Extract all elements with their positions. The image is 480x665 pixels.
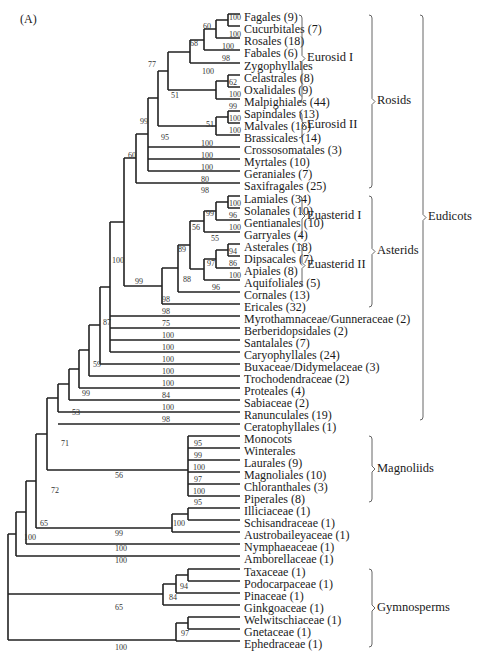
support-value: 97 (207, 259, 215, 268)
support-value: 51 (206, 120, 214, 129)
clade-label: Eurosid I (307, 50, 353, 64)
taxon-label: Saxifragales (25) (244, 179, 326, 193)
taxon-label: Amborellaceae (1) (244, 552, 334, 566)
support-value: 99 (135, 277, 143, 286)
support-value: 100 (162, 343, 174, 352)
support-value: 100 (229, 30, 241, 39)
support-value: 72 (51, 486, 59, 495)
support-value: 100 (229, 13, 241, 22)
clade-bracket (369, 569, 375, 647)
support-value: 100 (162, 403, 174, 412)
support-value: 89 (178, 245, 186, 254)
support-value: 97 (194, 475, 202, 484)
clade-bracket (420, 15, 426, 420)
support-value: 86 (229, 259, 237, 268)
taxon-label: Fabales (6) (244, 46, 298, 60)
support-value: 96 (212, 283, 220, 292)
support-value: 100 (162, 331, 174, 340)
support-value: 71 (61, 439, 69, 448)
support-value: 60 (128, 151, 136, 160)
clade-label: Gymnosperms (377, 600, 450, 614)
support-value: 100 (202, 67, 214, 76)
support-value: 65 (115, 603, 123, 612)
support-value: 99 (115, 529, 123, 538)
support-value: 100 (201, 163, 213, 172)
clade-label: Rosids (377, 93, 411, 107)
support-value: 100 (193, 487, 205, 496)
support-value: 100 (162, 355, 174, 364)
clade-label: Asterids (377, 243, 419, 257)
support-value: 55 (211, 234, 219, 243)
support-value: 84 (169, 593, 177, 602)
support-value: 100 (229, 114, 241, 123)
support-value: 56 (115, 471, 123, 480)
support-value: 98 (201, 186, 209, 195)
clade-label: Euasterid II (307, 257, 366, 271)
support-value: 100 (115, 643, 127, 652)
support-value: 98 (162, 415, 170, 424)
support-value: 100 (201, 139, 213, 148)
support-value: 95 (161, 133, 169, 142)
support-value: 100 (115, 556, 127, 565)
clade-bracket (369, 436, 375, 502)
support-value: 100 (162, 379, 174, 388)
support-value: 100 (162, 367, 174, 376)
taxon-label: Ephedraceae (1) (244, 637, 322, 651)
support-value: 98 (162, 307, 170, 316)
clade-bracket (369, 196, 375, 307)
support-value: 99 (229, 102, 237, 111)
support-value: 97 (181, 629, 189, 638)
support-value: 56 (192, 223, 200, 232)
support-value: 60 (203, 22, 211, 31)
support-value: 87 (103, 318, 111, 327)
support-value: 100 (222, 42, 234, 51)
support-value: 51 (171, 91, 179, 100)
support-value: 100 (115, 544, 127, 553)
support-value: 100 (229, 271, 241, 280)
support-value: 88 (183, 275, 191, 284)
clade-label: Eudicots (428, 209, 472, 223)
support-value: 80 (201, 175, 209, 184)
support-value: 100 (229, 223, 241, 232)
support-value: 99 (82, 389, 90, 398)
support-value: 68 (190, 39, 198, 48)
support-value: 53 (72, 408, 80, 417)
support-value: 100 (173, 519, 185, 528)
phylogenetic-tree: Fagales (9)Cucurbitales (7)Rosales (18)F… (0, 0, 480, 665)
support-value: 77 (148, 60, 156, 69)
support-value: 75 (162, 319, 170, 328)
clade-label: Euasterid I (307, 208, 362, 222)
support-value: 100 (24, 533, 36, 542)
clade-bracket (369, 15, 375, 188)
support-value: 99 (194, 451, 202, 460)
support-value: 84 (162, 391, 170, 400)
support-value: 96 (229, 211, 237, 220)
support-value: 100 (201, 151, 213, 160)
support-value: 65 (40, 519, 48, 528)
support-value: 99 (206, 209, 214, 218)
clade-label: Magnoliids (377, 461, 434, 475)
support-value: 98 (162, 295, 170, 304)
support-value: 62 (229, 78, 237, 87)
support-value: 98 (222, 54, 230, 63)
support-value: 100 (229, 199, 241, 208)
support-value: 100 (229, 126, 241, 135)
support-value: 94 (180, 582, 188, 591)
support-value: 95 (194, 498, 202, 507)
support-value: 100 (112, 256, 124, 265)
support-value: 94 (229, 247, 237, 256)
support-value: 59 (93, 360, 101, 369)
support-value: 100 (193, 463, 205, 472)
support-value: 100 (229, 90, 241, 99)
clade-label: Eurosid II (307, 117, 357, 131)
support-value: 99 (140, 117, 148, 126)
support-value: 95 (194, 439, 202, 448)
